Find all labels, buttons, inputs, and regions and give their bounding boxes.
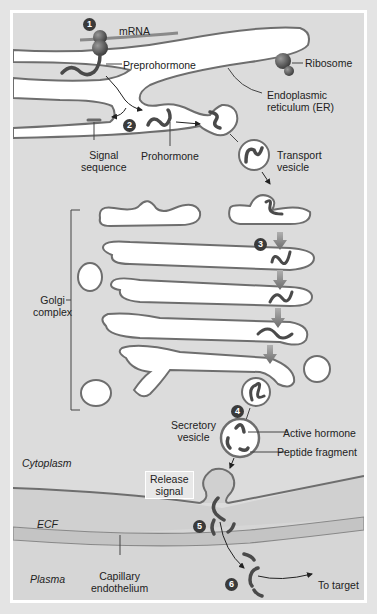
cytoplasm-label: Cytoplasm — [22, 457, 72, 469]
step-6-badge: 6 — [225, 578, 238, 591]
secretory-vesicle-label: Secretory vesicle — [171, 419, 216, 443]
to-target-label: To target — [318, 579, 359, 591]
transport-vesicle — [239, 140, 269, 170]
peptide-fragment-label: Peptide fragment — [277, 446, 357, 458]
signal-sequence-label: Signal sequence — [81, 149, 127, 173]
golgi-cis-1 — [100, 201, 200, 226]
plasma-label: Plasma — [30, 573, 65, 585]
er-label: Endoplasmic reticulum (ER) — [267, 89, 334, 113]
capillary-endothelium-label: Capillary endothelium — [91, 570, 148, 594]
transport-vesicle-label: Transport vesicle — [277, 149, 322, 173]
golgi-complex-label: Golgi complex — [33, 294, 72, 318]
preprohormone-label: Preprohormone — [123, 59, 196, 71]
release-signal-label: Release signal — [145, 471, 194, 499]
step-1-badge: 1 — [83, 18, 96, 31]
prohormone-label: Prohormone — [141, 150, 199, 162]
active-hormone-label: Active hormone — [283, 427, 356, 439]
ecf-label: ECF — [37, 518, 58, 530]
step-5-badge: 5 — [193, 520, 206, 533]
diagram-panel: 1 mRNA Preprohormone Ribosome Endoplasmi… — [13, 13, 364, 600]
mrna-label: mRNA — [119, 25, 150, 37]
golgi-bracket — [71, 210, 80, 410]
ribosome-label: Ribosome — [305, 57, 352, 69]
step-3-badge: 3 — [254, 238, 267, 251]
step-4-badge: 4 — [231, 405, 244, 418]
step-2-badge: 2 — [123, 119, 136, 132]
